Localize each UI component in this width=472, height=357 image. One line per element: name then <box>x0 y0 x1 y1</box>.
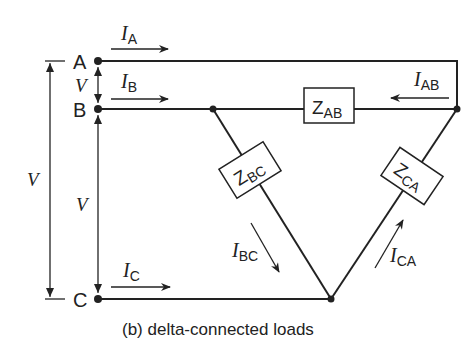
current-ib-label: IB <box>120 70 137 95</box>
impedance-zbc: ZBC <box>219 142 281 198</box>
branch-ca <box>331 109 457 299</box>
current-ic-label: IC <box>122 259 140 284</box>
node-c-label: C <box>73 289 87 311</box>
node-b-dot <box>94 105 102 113</box>
wire-a <box>98 61 457 109</box>
node-b-label: B <box>73 99 86 121</box>
figure-caption: (b) delta-connected loads <box>122 320 314 339</box>
voltage-ab-label: V <box>75 75 89 96</box>
junction-b <box>210 106 217 113</box>
node-a-dot <box>94 57 102 65</box>
current-iab-label: IAB <box>413 68 439 93</box>
impedance-zca: ZCA <box>381 147 443 204</box>
current-ia-label: IA <box>120 22 138 47</box>
branch-bc <box>213 109 331 299</box>
node-c-dot <box>94 295 102 303</box>
junction-bottom <box>328 296 335 303</box>
node-a-label: A <box>73 51 87 73</box>
impedance-zab: ZAB <box>304 88 354 123</box>
delta-circuit-diagram: ZAB ZBC ZCA A B C V V V IA IB IC IAB IBC… <box>0 0 472 357</box>
current-ica-label: ICA <box>389 244 417 269</box>
voltage-ac-label: V <box>27 169 41 190</box>
junction-right <box>454 106 461 113</box>
voltage-bc-label: V <box>76 194 90 215</box>
current-ibc-label: IBC <box>231 239 258 264</box>
